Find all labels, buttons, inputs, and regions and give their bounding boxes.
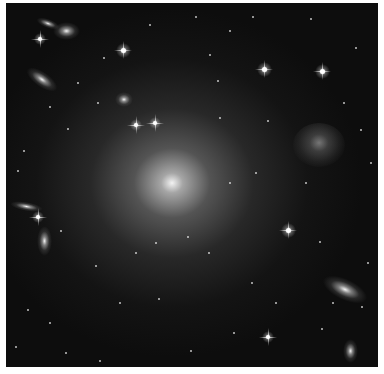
faint-star bbox=[97, 102, 99, 104]
faint-star bbox=[149, 24, 151, 26]
faint-star bbox=[370, 162, 372, 164]
faint-star bbox=[319, 241, 321, 243]
faint-star bbox=[17, 170, 19, 172]
galaxy bbox=[343, 339, 358, 363]
faint-star bbox=[60, 230, 62, 232]
faint-star bbox=[217, 80, 219, 82]
faint-star bbox=[267, 120, 269, 122]
bright-star bbox=[134, 123, 138, 127]
faint-star bbox=[321, 328, 323, 330]
faint-star bbox=[251, 282, 253, 284]
bright-star bbox=[36, 215, 40, 219]
bright-star bbox=[262, 67, 267, 72]
faint-star bbox=[119, 302, 121, 304]
faint-star bbox=[27, 309, 29, 311]
faint-star bbox=[219, 117, 221, 119]
faint-star bbox=[15, 346, 17, 348]
faint-star bbox=[77, 82, 79, 84]
faint-star bbox=[229, 182, 231, 184]
irregular-galaxy bbox=[293, 123, 345, 167]
faint-star bbox=[355, 47, 357, 49]
bright-star bbox=[320, 69, 325, 74]
faint-star bbox=[187, 236, 189, 238]
bright-star bbox=[266, 335, 270, 339]
faint-star bbox=[252, 16, 254, 18]
faint-star bbox=[158, 298, 160, 300]
faint-star bbox=[361, 306, 363, 308]
faint-star bbox=[155, 242, 157, 244]
faint-star bbox=[49, 106, 51, 108]
galaxy-image bbox=[6, 3, 378, 367]
bright-star bbox=[121, 48, 126, 53]
galaxy bbox=[319, 269, 371, 308]
faint-star bbox=[135, 252, 137, 254]
faint-star bbox=[49, 322, 51, 324]
faint-star bbox=[229, 30, 231, 32]
faint-star bbox=[195, 16, 197, 18]
faint-star bbox=[190, 350, 192, 352]
galaxy bbox=[35, 15, 61, 32]
faint-star bbox=[65, 352, 67, 354]
faint-star bbox=[99, 360, 101, 362]
bright-star bbox=[286, 228, 291, 233]
bright-star bbox=[38, 37, 42, 41]
faint-star bbox=[255, 172, 257, 174]
faint-star bbox=[95, 265, 97, 267]
faint-star bbox=[233, 332, 235, 334]
galaxy bbox=[37, 226, 52, 256]
faint-star bbox=[208, 252, 210, 254]
faint-star bbox=[103, 57, 105, 59]
faint-star bbox=[209, 54, 211, 56]
faint-star bbox=[305, 182, 307, 184]
central-elliptical-galaxy bbox=[6, 7, 364, 359]
bright-star bbox=[153, 121, 157, 125]
faint-star bbox=[360, 129, 362, 131]
faint-star bbox=[332, 302, 334, 304]
faint-star bbox=[343, 102, 345, 104]
faint-star bbox=[67, 128, 69, 130]
faint-star bbox=[310, 18, 312, 20]
galaxy bbox=[115, 92, 133, 107]
faint-star bbox=[367, 262, 369, 264]
faint-star bbox=[23, 150, 25, 152]
faint-star bbox=[275, 302, 277, 304]
